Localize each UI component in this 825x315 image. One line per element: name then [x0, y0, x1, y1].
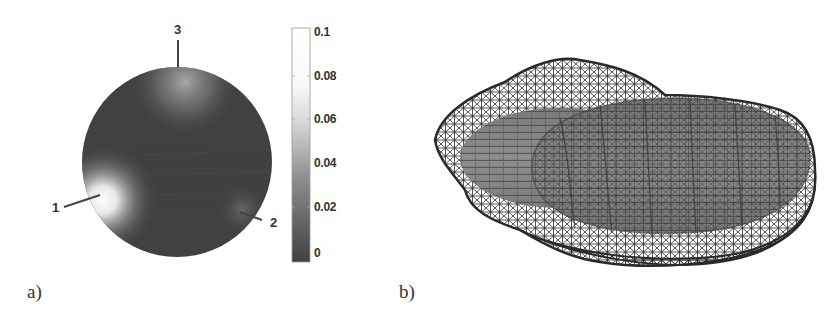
colorbar-tick-0.04: 0.04	[314, 156, 336, 170]
panel-a-label: a)	[27, 281, 42, 303]
colorbar-tick-0.1: 0.1	[314, 25, 330, 39]
inner-ellipsoid-right	[532, 98, 810, 235]
colorbar	[292, 28, 310, 262]
colorbar-tick-0.06: 0.06	[314, 112, 336, 126]
marker-3-label: 3	[174, 22, 181, 37]
panel-b-label: b)	[399, 281, 415, 303]
sphere	[48, 27, 272, 257]
wireframe-figure	[390, 0, 825, 315]
colorbar-tick-0.08: 0.08	[314, 69, 336, 83]
panel-a-sphere: 3 1 2 0.1 0.08 0.06 0.04 0.02 0 a)	[0, 0, 390, 315]
panel-b-wireframe: b)	[390, 0, 825, 315]
colorbar-tick-0.02: 0.02	[314, 200, 336, 214]
marker-2-label: 2	[270, 215, 277, 230]
marker-1-label: 1	[52, 200, 59, 215]
colorbar-tick-0: 0	[314, 246, 320, 260]
